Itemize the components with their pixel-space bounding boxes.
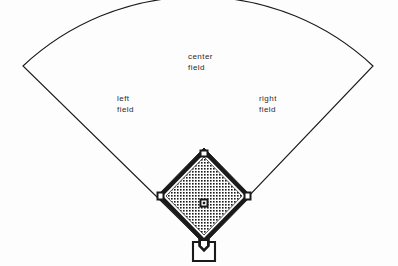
first-base <box>244 192 252 201</box>
infield-stipple-fill <box>160 150 250 242</box>
baseball-field-diagram <box>0 0 398 266</box>
home-plate-area <box>193 239 215 261</box>
label-center-field: center field <box>188 51 213 73</box>
second-base <box>200 150 209 158</box>
third-base <box>157 192 165 201</box>
infield-diamond <box>157 148 251 244</box>
label-left-field: left field <box>117 93 134 115</box>
label-right-field: right field <box>259 93 277 115</box>
pitchers-mound <box>200 199 209 208</box>
diagram-canvas: center field left field right field <box>0 0 398 266</box>
